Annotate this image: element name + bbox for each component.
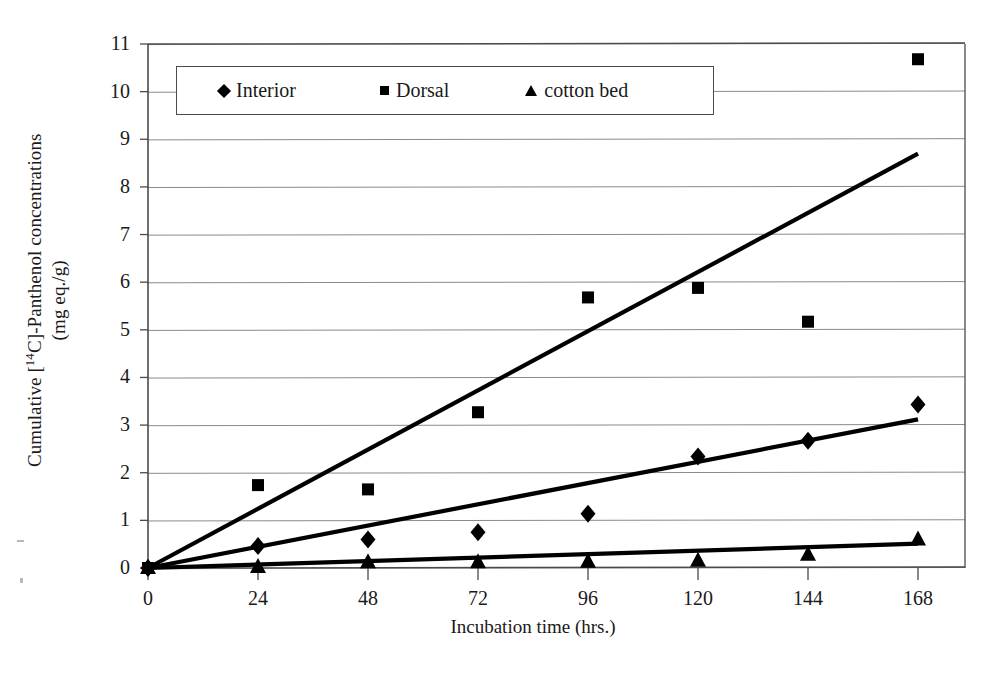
trendlines [148, 154, 918, 568]
scan-speck [17, 540, 24, 542]
legend: Interior Dorsal cotton bed [176, 66, 714, 115]
axes [140, 43, 965, 580]
x-tick-label: 0 [118, 588, 178, 608]
x-axis-title: Incubation time (hrs.) [148, 616, 918, 638]
x-tick-label: 48 [338, 588, 398, 608]
scan-speck [20, 578, 23, 583]
y-tick-label: 0 [96, 557, 130, 577]
data-markers [140, 53, 926, 577]
legend-label-cotton-bed: cotton bed [544, 79, 628, 102]
diamond-marker-icon [217, 83, 231, 97]
legend-item-dorsal: Dorsal [380, 79, 449, 102]
x-tick-label: 144 [778, 588, 838, 608]
y-tick-label: 8 [96, 176, 130, 196]
y-tick-label: 6 [96, 271, 130, 291]
y-tick-label: 2 [96, 462, 130, 482]
y-tick-label: 11 [96, 33, 130, 53]
x-tick-label: 72 [448, 588, 508, 608]
square-marker-icon [380, 86, 389, 95]
y-tick-label: 7 [96, 224, 130, 244]
y-tick-label: 1 [96, 509, 130, 529]
legend-label-interior: Interior [236, 79, 296, 102]
y-tick-label: 3 [96, 414, 130, 434]
x-tick-label: 96 [558, 588, 618, 608]
x-tick-label: 24 [228, 588, 288, 608]
triangle-marker-icon [525, 85, 537, 96]
chart-figure: Cumulative [14C]-Panthenol concentration… [0, 0, 997, 676]
y-tick-label: 4 [96, 366, 130, 386]
legend-item-interior: Interior [219, 79, 296, 102]
y-tick-label: 5 [96, 319, 130, 339]
x-tick-label: 120 [668, 588, 728, 608]
legend-label-dorsal: Dorsal [396, 79, 449, 102]
legend-item-cotton-bed: cotton bed [525, 79, 628, 102]
y-tick-label: 10 [96, 81, 130, 101]
y-tick-label: 9 [96, 128, 130, 148]
x-tick-label: 168 [888, 588, 948, 608]
